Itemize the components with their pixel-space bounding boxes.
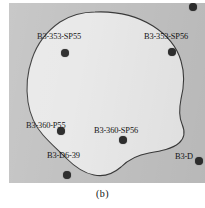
figure-panel: B3-353-SP55B3-353-SP56B3-360-P55B3-360-S… — [9, 3, 205, 183]
label-b3-353-sp56: B3-353-SP56 — [144, 33, 188, 41]
label-b3-353-sp55: B3-353-SP55 — [37, 33, 81, 41]
figure-caption: (b) — [0, 188, 205, 199]
label-b3-360-sp56: B3-360-SP56 — [94, 127, 138, 135]
label-b3-d-right: B3-D — [175, 153, 193, 161]
label-b3-d6-39: B3-D6-39 — [47, 152, 80, 160]
marker-b3-353-sp56 — [168, 48, 176, 56]
figure-container: B3-353-SP55B3-353-SP56B3-360-P55B3-360-S… — [0, 0, 205, 208]
label-b3-360-p55: B3-360-P55 — [26, 122, 65, 130]
marker-b3-d6-39 — [63, 171, 71, 179]
marker-top-edge-partial — [189, 3, 197, 11]
